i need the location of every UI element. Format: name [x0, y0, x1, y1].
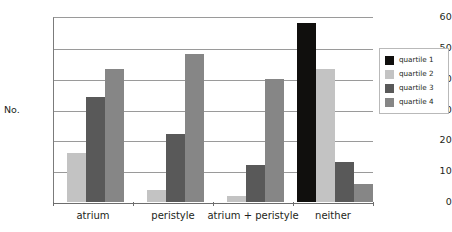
legend-item[interactable]: quartile 1	[385, 54, 444, 66]
bar	[86, 97, 105, 202]
x-tick	[213, 202, 214, 206]
legend-label: quartile 3	[399, 84, 434, 92]
bar-chart: 0102030405060No. atriumperistyleatrium +…	[0, 0, 452, 232]
x-category-label: atrium + peristyle	[207, 211, 298, 221]
bar	[67, 153, 86, 202]
x-tick	[133, 202, 134, 206]
plot-area	[53, 17, 373, 202]
x-category-label: neither	[315, 211, 351, 221]
legend-label: quartile 1	[399, 56, 434, 64]
y-tick-label: 20	[406, 135, 452, 145]
bar	[335, 162, 354, 202]
legend-label: quartile 2	[399, 70, 434, 78]
bar	[316, 69, 335, 202]
bar	[185, 54, 204, 202]
legend-item[interactable]: quartile 2	[385, 68, 444, 80]
x-tick	[53, 202, 54, 206]
legend-swatch-icon	[385, 98, 394, 107]
legend-label: quartile 4	[399, 98, 434, 106]
legend-item[interactable]: quartile 4	[385, 96, 444, 108]
y-tick-label: 0	[406, 197, 452, 207]
bar	[166, 134, 185, 202]
y-axis-title: No.	[4, 105, 20, 115]
x-tick	[293, 202, 294, 206]
x-category-label: atrium	[76, 211, 109, 221]
y-tick-label: 60	[406, 12, 452, 22]
bar	[147, 190, 166, 202]
x-tick	[373, 202, 374, 206]
legend-swatch-icon	[385, 70, 394, 79]
legend: quartile 1quartile 2quartile 3quartile 4	[379, 48, 449, 114]
legend-item[interactable]: quartile 3	[385, 82, 444, 94]
legend-swatch-icon	[385, 84, 394, 93]
x-category-label: peristyle	[151, 211, 194, 221]
y-tick-label: 10	[406, 166, 452, 176]
bar	[246, 165, 265, 202]
bar	[227, 196, 246, 202]
bar	[297, 23, 316, 202]
gridline	[54, 49, 373, 50]
legend-swatch-icon	[385, 56, 394, 65]
bar	[105, 69, 124, 202]
bar	[265, 79, 284, 202]
bar	[354, 184, 373, 203]
